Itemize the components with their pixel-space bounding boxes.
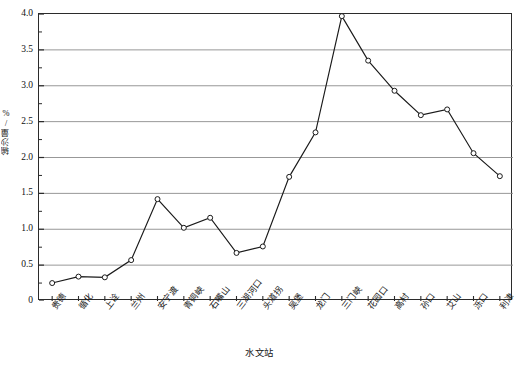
- x-axis-title: 水文站: [0, 345, 519, 359]
- data-point-marker: [102, 275, 107, 280]
- data-point-marker: [234, 250, 239, 255]
- data-point-marker: [129, 258, 134, 263]
- data-point-marker: [497, 174, 502, 179]
- y-tick-label: 3.0: [7, 80, 33, 90]
- data-point-marker: [392, 88, 397, 93]
- y-tick-label: 2.0: [7, 152, 33, 162]
- data-point-marker: [181, 225, 186, 230]
- data-point-markers: [50, 14, 503, 286]
- plot-area: [38, 13, 512, 300]
- data-point-marker: [366, 58, 371, 63]
- y-tick-label: 3.5: [7, 44, 33, 54]
- chart-figure: 输沙量/% 00.51.01.52.02.53.03.54.0 贵德循化上诠兰州…: [0, 0, 519, 366]
- data-point-marker: [287, 174, 292, 179]
- data-point-marker: [418, 113, 423, 118]
- y-tick-label: 1.0: [7, 223, 33, 233]
- data-point-marker: [339, 14, 344, 19]
- data-point-marker: [445, 107, 450, 112]
- plot-svg: [39, 14, 513, 301]
- y-tick-label: 2.5: [7, 116, 33, 126]
- y-tick-label: 4.0: [7, 8, 33, 18]
- y-tick-label: 0.5: [7, 259, 33, 269]
- data-point-marker: [50, 281, 55, 286]
- gridlines: [39, 50, 513, 265]
- data-point-marker: [208, 215, 213, 220]
- data-point-marker: [76, 274, 81, 279]
- x-axis-tick-labels: 贵德循化上诠兰州安宁渡青铜峡石嘴山三湖河口头道拐吴堡龙门三门峡花园口高村孙口艾山…: [0, 302, 519, 348]
- data-point-marker: [155, 197, 160, 202]
- data-point-marker: [471, 151, 476, 156]
- data-point-marker: [260, 244, 265, 249]
- data-series-line: [52, 16, 500, 283]
- y-axis-major-ticks: [39, 14, 44, 301]
- data-point-marker: [313, 130, 318, 135]
- y-tick-label: 1.5: [7, 187, 33, 197]
